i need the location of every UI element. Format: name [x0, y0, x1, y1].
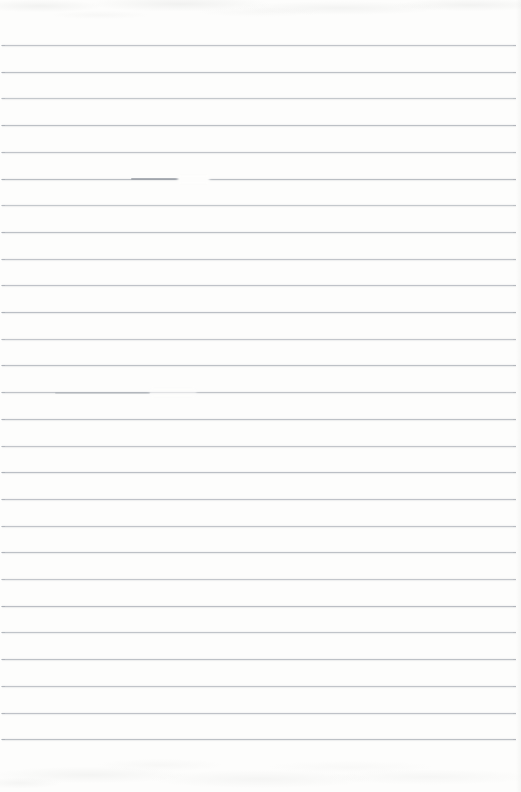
scan-artifact-ink-blotch-with-white-gap-gap	[178, 176, 209, 183]
ruled-line	[2, 285, 516, 286]
ruled-line	[2, 659, 516, 660]
ruled-line	[2, 312, 516, 313]
ruled-line	[2, 45, 516, 46]
ruled-line	[2, 179, 516, 180]
ruled-lines	[0, 0, 521, 792]
scan-artifact-faded-smudge-dark	[55, 392, 150, 394]
ruled-line	[2, 713, 516, 714]
scan-artifact-ink-blotch-with-white-gap-dark	[131, 178, 180, 180]
ruled-line	[2, 632, 516, 633]
ruled-line	[2, 446, 516, 447]
ruled-line	[2, 152, 516, 153]
ruled-line	[2, 552, 516, 553]
scan-artifact-faded-smudge-gap	[150, 389, 196, 396]
ruled-line	[2, 259, 516, 260]
ruled-line	[2, 419, 516, 420]
ruled-line	[2, 339, 516, 340]
ruled-line	[2, 125, 516, 126]
ruled-line	[2, 499, 516, 500]
ruled-line	[2, 739, 516, 740]
ruled-line	[2, 526, 516, 527]
ruled-line	[2, 365, 516, 366]
notebook-page	[0, 0, 521, 792]
ruled-line	[2, 606, 516, 607]
ruled-line	[2, 205, 516, 206]
ruled-line	[2, 686, 516, 687]
ruled-line	[2, 579, 516, 580]
ruled-line	[2, 232, 516, 233]
ruled-line	[2, 98, 516, 99]
ruled-line	[2, 72, 516, 73]
ruled-line	[2, 472, 516, 473]
